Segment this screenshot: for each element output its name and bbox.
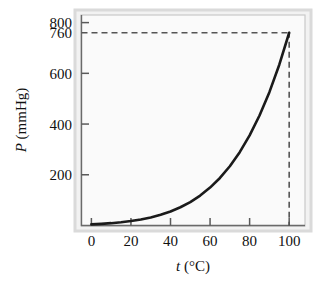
y-axis-label: P (mmHg) [13, 88, 30, 154]
y-tick-label-600: 600 [50, 66, 73, 82]
plot-area-background [81, 15, 305, 226]
vapor-pressure-figure: 800 760 600 400 200 0 20 40 60 80 100 t … [0, 0, 329, 281]
vapor-pressure-chart: 800 760 600 400 200 0 20 40 60 80 100 t … [0, 0, 329, 281]
x-tick-label-100: 100 [278, 233, 301, 249]
y-axis-label-symbol: P [13, 143, 29, 153]
y-tick-labels: 800 760 600 400 200 [50, 15, 73, 183]
x-axis-label-units: (°C) [184, 258, 210, 275]
x-axis-label: t (°C) [176, 258, 210, 275]
y-axis-label-units: (mmHg) [13, 88, 30, 140]
y-tick-label-200: 200 [50, 167, 73, 183]
x-tick-label-20: 20 [123, 233, 138, 249]
x-tick-label-40: 40 [163, 233, 178, 249]
x-tick-label-0: 0 [88, 233, 96, 249]
y-tick-label-760: 760 [50, 25, 73, 41]
x-tick-label-60: 60 [203, 233, 218, 249]
x-tick-labels: 0 20 40 60 80 100 [88, 233, 301, 249]
x-tick-label-80: 80 [242, 233, 257, 249]
y-tick-label-400: 400 [50, 117, 73, 133]
